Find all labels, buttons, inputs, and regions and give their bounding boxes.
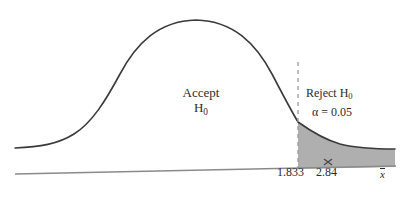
- x-axis-label-text: x: [380, 168, 385, 180]
- alpha-level-label: α = 0.05: [312, 106, 352, 119]
- test-statistic-label: 2.84: [316, 166, 337, 179]
- critical-value-label: 1.833: [277, 166, 304, 179]
- accept-h-subscript: 0: [203, 106, 208, 116]
- hypothesis-test-figure: Accept H0 Reject H0 α = 0.05 1.833 2.84 …: [0, 0, 402, 198]
- reject-label-base: Reject H: [306, 86, 348, 100]
- accept-h-base: H: [194, 100, 203, 115]
- x-axis-label: x: [380, 168, 385, 180]
- x-bar-overline: [380, 168, 384, 169]
- x-axis-line: [15, 166, 396, 174]
- reject-h-subscript: 0: [348, 91, 352, 101]
- reject-region-label: Reject H0: [306, 87, 353, 102]
